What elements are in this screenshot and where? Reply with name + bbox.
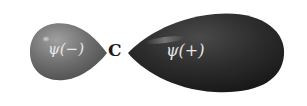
orbital-shapes — [0, 0, 307, 106]
orbital-diagram: ψ(−) C ψ(+) — [0, 0, 307, 106]
large-lobe-label: ψ(+) — [166, 41, 204, 60]
large-lobe — [128, 13, 284, 92]
nucleus-label: C — [108, 40, 122, 60]
small-lobe-label: ψ(−) — [48, 40, 84, 58]
